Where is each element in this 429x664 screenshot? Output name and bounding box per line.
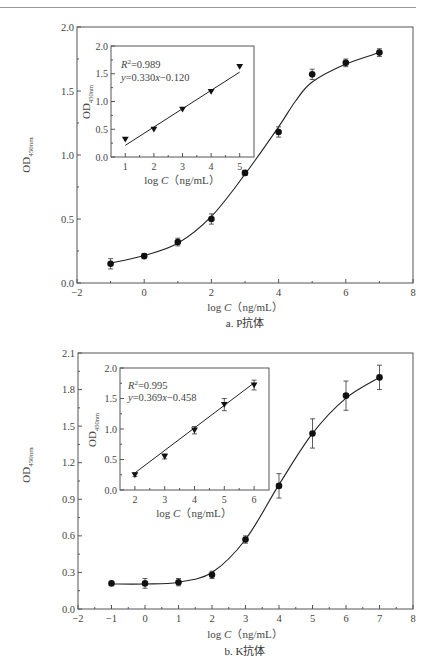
y-tick-label: 1.0 — [61, 150, 74, 161]
chart-a-y-axis: 0.00.51.01.52.0 — [61, 22, 81, 289]
data-point-circle — [343, 392, 350, 399]
chart-b-x-label: log C（ng/mL） — [207, 628, 283, 640]
x-tick-label: −2 — [71, 287, 82, 298]
chart-b-caption: b. K抗体 — [225, 644, 266, 657]
y-tick-label: 0.0 — [96, 152, 109, 163]
data-point-circle — [242, 536, 249, 543]
y-tick-label: 1.5 — [96, 68, 109, 79]
x-tick-label: 5 — [222, 494, 227, 505]
y-tick-label: 0.0 — [62, 604, 75, 615]
chart-a: −202468 0.00.51.01.52.0 log C（ng/mL） OD4… — [20, 22, 416, 330]
chart-b-y-label: OD450nm — [20, 447, 35, 483]
data-point-circle — [209, 572, 216, 579]
y-tick-label: 2.0 — [61, 22, 74, 33]
chart-a-inset-equation: y=0.330x−0.120 — [120, 72, 189, 83]
data-point-circle — [175, 579, 182, 586]
y-tick-label: 1.5 — [105, 393, 118, 404]
y-tick-label: 0.5 — [105, 454, 118, 465]
chart-a-x-label: log C（ng/mL） — [207, 301, 283, 313]
figure: −202468 0.00.51.01.52.0 log C（ng/mL） OD4… — [0, 0, 429, 664]
chart-a-caption: a. P抗体 — [226, 316, 265, 329]
x-tick-label: −1 — [106, 613, 117, 624]
chart-b-inset-r2: R2=0.995 — [127, 379, 167, 391]
y-tick-label: 0.3 — [62, 567, 75, 578]
chart-b-y-axis: 0.00.30.60.91.21.51.82.1 — [62, 348, 82, 615]
data-point-circle — [208, 216, 215, 223]
x-tick-label: 8 — [410, 287, 415, 298]
data-point-circle — [309, 430, 316, 437]
chart-a-inset-r2: R2=0.989 — [120, 58, 160, 70]
data-point-circle — [175, 239, 182, 246]
x-tick-label: 4 — [192, 494, 197, 505]
data-point-circle — [108, 580, 115, 587]
chart-a-inset-y-label: OD450nm — [80, 85, 94, 119]
x-tick-label: 7 — [377, 613, 382, 624]
data-point-circle — [275, 129, 282, 136]
x-tick-label: 1 — [176, 613, 181, 624]
x-tick-label: 1 — [123, 161, 128, 172]
x-tick-label: 8 — [410, 613, 415, 624]
x-tick-label: 4 — [209, 161, 214, 172]
x-tick-label: 3 — [162, 494, 167, 505]
x-tick-label: 2 — [151, 161, 156, 172]
x-tick-label: 6 — [343, 613, 348, 624]
chart-a-inset-x-label: log C（ng/mL） — [144, 174, 220, 186]
x-tick-label: 0 — [142, 613, 147, 624]
x-tick-label: 0 — [142, 287, 147, 298]
x-tick-label: −2 — [72, 613, 83, 624]
y-tick-label: 0.0 — [61, 278, 74, 289]
y-tick-label: 1.2 — [62, 457, 75, 468]
data-point-circle — [376, 374, 383, 381]
y-tick-label: 1.8 — [62, 384, 75, 395]
y-tick-label: 1.0 — [105, 424, 118, 435]
chart-b-x-axis: −2−1012345678 — [72, 605, 415, 624]
y-tick-label: 2.0 — [96, 41, 109, 52]
x-tick-label: 6 — [343, 287, 348, 298]
chart-b-inset-equation: y=0.369x−0.458 — [127, 392, 196, 403]
x-tick-label: 3 — [180, 161, 185, 172]
x-tick-label: 2 — [209, 287, 214, 298]
x-tick-label: 2 — [209, 613, 214, 624]
data-point-circle — [107, 261, 114, 268]
x-tick-label: 6 — [252, 494, 257, 505]
data-point-circle — [376, 49, 383, 56]
data-point-circle — [141, 253, 148, 260]
y-tick-label: 1.5 — [61, 86, 74, 97]
chart-a-y-label: OD450nm — [20, 137, 35, 173]
chart-a-inset: 12345 0.00.51.01.52.0 R2=0.989 y=0.330x−… — [80, 41, 254, 187]
chart-a-x-axis: −202468 — [71, 279, 415, 298]
data-point-circle — [242, 170, 249, 177]
y-tick-label: 2.0 — [105, 363, 118, 374]
chart-b-inset: 23456 0.00.51.01.52.0 R2=0.995 y=0.369x−… — [86, 363, 269, 520]
chart-b-inset-x-label: log C（ng/mL） — [156, 507, 232, 519]
data-point-circle — [343, 60, 350, 67]
x-tick-label: 4 — [276, 613, 282, 624]
x-tick-label: 5 — [310, 613, 315, 624]
data-point-circle — [142, 580, 149, 587]
data-point-circle — [276, 483, 283, 490]
chart-b-inset-y-label: OD450nm — [86, 413, 100, 447]
x-tick-label: 4 — [276, 287, 282, 298]
y-tick-label: 0.5 — [61, 214, 74, 225]
data-point-circle — [309, 71, 316, 78]
y-tick-label: 0.9 — [62, 494, 75, 505]
y-tick-label: 1.5 — [62, 421, 75, 432]
y-tick-label: 0.0 — [105, 485, 118, 496]
y-tick-label: 0.5 — [96, 124, 109, 135]
chart-b: −2−1012345678 0.00.30.60.91.21.51.82.1 l… — [20, 348, 416, 658]
x-tick-label: 2 — [132, 494, 137, 505]
x-tick-label: 5 — [237, 161, 242, 172]
x-tick-label: 3 — [243, 613, 248, 624]
y-tick-label: 2.1 — [62, 348, 75, 359]
y-tick-label: 1.0 — [96, 96, 109, 107]
y-tick-label: 0.6 — [62, 530, 75, 541]
